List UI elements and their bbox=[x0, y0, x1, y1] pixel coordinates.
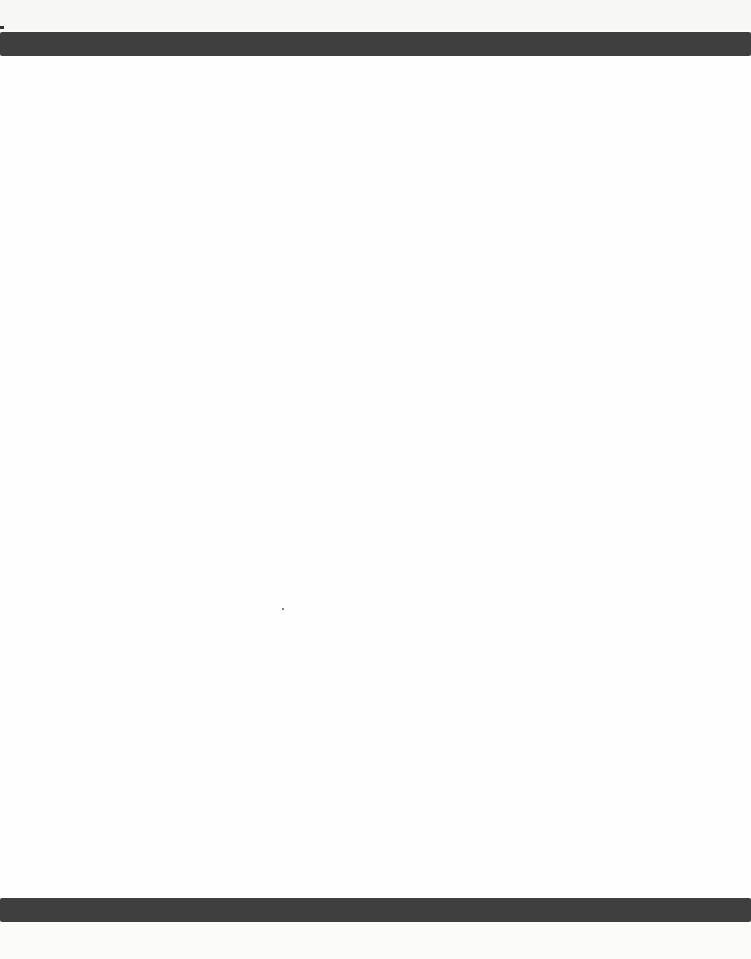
blank-page-body bbox=[0, 56, 751, 898]
scan-speck bbox=[282, 608, 284, 610]
scan-corner-mark bbox=[0, 26, 4, 29]
top-dark-bar bbox=[0, 32, 751, 56]
page-top-margin bbox=[0, 0, 751, 30]
bottom-dark-bar bbox=[0, 898, 751, 922]
